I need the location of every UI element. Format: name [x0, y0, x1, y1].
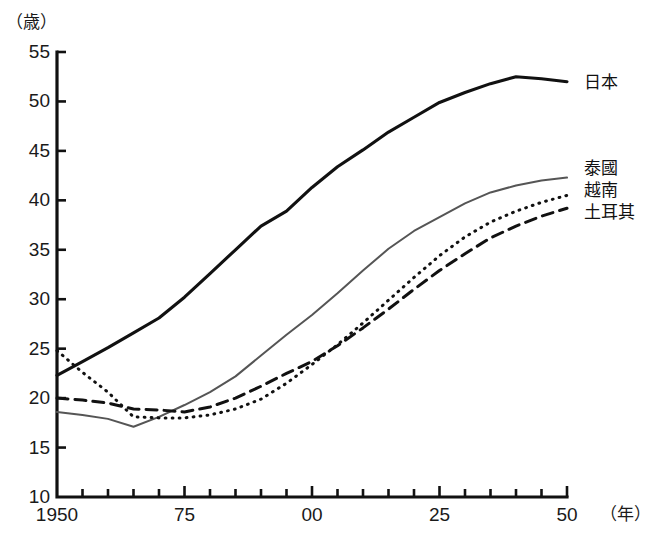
- series-line-2: [57, 195, 567, 418]
- line-chart: （歳） （年） 10152025303540455055 19507500255…: [0, 0, 656, 552]
- x-axis-tick-label: 00: [301, 504, 322, 526]
- axis-lines: [57, 52, 567, 497]
- y-axis-tick-label: 20: [8, 387, 50, 409]
- y-axis-tick-label: 40: [8, 189, 50, 211]
- x-axis-tick-label: 50: [556, 504, 577, 526]
- y-axis-tick-label: 55: [8, 41, 50, 63]
- x-axis-tick-label: 1950: [36, 504, 78, 526]
- series-line-1: [57, 178, 567, 427]
- series-label-泰國: 泰國: [584, 160, 618, 178]
- series-line-3: [57, 208, 567, 412]
- series-label-土耳其: 土耳其: [584, 204, 635, 222]
- y-axis-tick-label: 50: [8, 90, 50, 112]
- y-axis-tick-label: 25: [8, 338, 50, 360]
- y-axis-tick-label: 15: [8, 437, 50, 459]
- y-axis-tick-label: 35: [8, 239, 50, 261]
- series-label-越南: 越南: [584, 182, 618, 200]
- x-axis-tick-label: 75: [174, 504, 195, 526]
- series-label-日本: 日本: [584, 74, 618, 92]
- plot-area: [0, 0, 656, 552]
- y-axis-tick-label: 30: [8, 288, 50, 310]
- x-axis-tick-label: 25: [429, 504, 450, 526]
- y-axis-tick-label: 45: [8, 140, 50, 162]
- series-line-0: [57, 77, 567, 376]
